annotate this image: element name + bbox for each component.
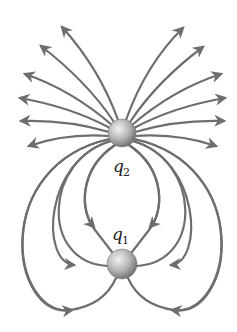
- field-line: [129, 145, 159, 252]
- field-line: [85, 145, 115, 227]
- field-line: [135, 121, 224, 132]
- field-line: [62, 27, 118, 120]
- field-line: [135, 135, 216, 146]
- charge-q1: [107, 249, 137, 279]
- field-line-diagram: q 2 q 1: [0, 0, 237, 332]
- field-line: [128, 139, 222, 310]
- charge-subscript-q1: 1: [122, 234, 129, 247]
- charge-q2: [108, 119, 136, 147]
- field-line: [23, 139, 110, 310]
- field-line: [132, 74, 221, 125]
- field-line: [25, 74, 112, 125]
- field-line: [134, 139, 221, 310]
- field-line: [29, 135, 109, 146]
- field-line: [129, 145, 159, 227]
- field-line: [22, 139, 116, 310]
- field-line: [21, 121, 109, 132]
- field-line: [85, 145, 115, 252]
- charge-subscript-q2: 2: [123, 166, 130, 179]
